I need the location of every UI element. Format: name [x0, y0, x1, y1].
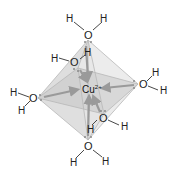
water-ligand-left: H H O — [10, 87, 38, 116]
svg-text:H: H — [70, 157, 77, 168]
svg-text:H: H — [100, 13, 107, 24]
water-ligand-right: H H O — [139, 67, 167, 96]
svg-text:H: H — [160, 85, 167, 96]
hexaaquacopper-diagram: H H O H H O H H O H H O H H O H H O — [0, 0, 175, 177]
svg-text:H: H — [152, 67, 159, 78]
water-ligand-top: H H O — [66, 13, 107, 41]
svg-text:O: O — [84, 140, 93, 152]
svg-text:H: H — [51, 53, 58, 64]
svg-text:O: O — [29, 92, 38, 104]
svg-text:H: H — [121, 121, 128, 132]
svg-text:O: O — [70, 56, 79, 68]
svg-text:H: H — [10, 87, 17, 98]
svg-text:O: O — [139, 78, 148, 90]
water-ligand-bottom: H H O — [70, 140, 109, 168]
svg-text:H: H — [84, 47, 91, 58]
svg-text:O: O — [99, 112, 108, 124]
svg-text:O: O — [84, 29, 93, 41]
svg-text:H: H — [18, 105, 25, 116]
svg-text:H: H — [87, 124, 94, 135]
svg-text:H: H — [102, 156, 109, 167]
svg-text:H: H — [66, 13, 73, 24]
